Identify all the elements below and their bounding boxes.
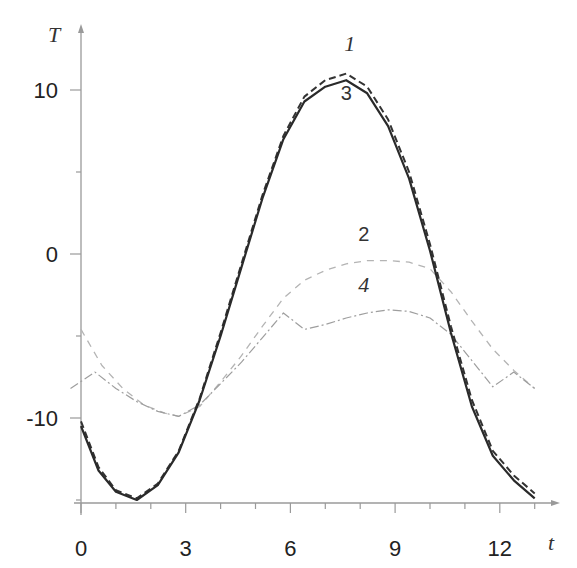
x-axis-ticks: 036912 bbox=[75, 503, 535, 561]
y-axis-ticks: -10010 bbox=[26, 78, 81, 500]
y-tick-label: 0 bbox=[46, 242, 58, 267]
curve-label-4: 4 bbox=[358, 272, 369, 297]
curve-labels: 1324 bbox=[341, 31, 370, 297]
line-chart: 036912 -10010 1324 T t bbox=[0, 0, 577, 568]
x-tick-label: 9 bbox=[389, 536, 401, 561]
curve-label-2: 2 bbox=[358, 223, 369, 245]
series-4-line bbox=[71, 310, 535, 417]
series-1-line bbox=[81, 74, 535, 499]
series-2-line bbox=[81, 261, 535, 417]
y-tick-label: -10 bbox=[26, 406, 58, 431]
curve-label-3: 3 bbox=[341, 82, 352, 104]
y-axis-title: T bbox=[48, 22, 62, 47]
x-tick-label: 0 bbox=[75, 536, 87, 561]
y-axis bbox=[78, 24, 84, 515]
y-tick-label: 10 bbox=[34, 78, 58, 103]
x-tick-label: 6 bbox=[284, 536, 296, 561]
x-tick-label: 12 bbox=[488, 536, 512, 561]
series-layer bbox=[71, 74, 535, 500]
x-tick-label: 3 bbox=[180, 536, 192, 561]
x-axis-title: t bbox=[548, 530, 555, 555]
curve-label-1: 1 bbox=[344, 31, 355, 56]
x-axis bbox=[74, 500, 560, 506]
series-3-line bbox=[81, 80, 535, 500]
